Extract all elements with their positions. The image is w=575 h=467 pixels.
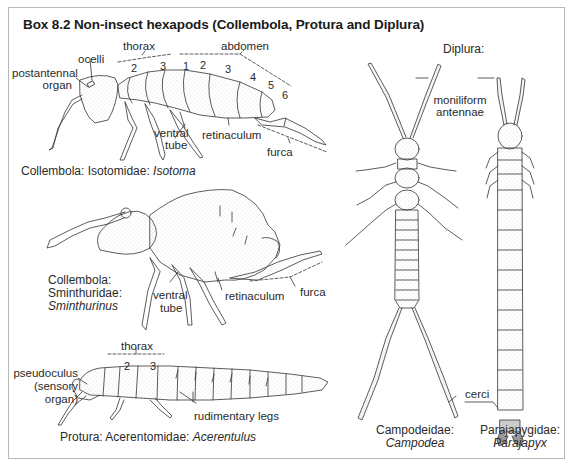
segment-label-abdomen-1: 1 — [183, 60, 189, 72]
caption-sminthurinus-line2: Sminthuridae: — [48, 286, 122, 300]
label-postantennal-organ-line2: organ — [12, 79, 72, 92]
segment-label-abdomen-5: 5 — [268, 79, 274, 91]
caption-sminthurinus-line1: Collembola: — [48, 273, 111, 287]
segment-label-abdomen-6: 6 — [282, 89, 288, 101]
segment-label-acerentulus-2: 2 — [124, 360, 130, 372]
label-pseudoculus-line1: pseudoculus — [10, 367, 78, 380]
diplura-leaders — [416, 78, 498, 408]
label-cerci: cerci — [465, 388, 489, 401]
label-thorax-isotoma: thorax — [123, 40, 155, 53]
label-ocelli: ocelli — [78, 53, 104, 66]
parajapyx-drawing — [486, 78, 534, 446]
label-abdomen-isotoma: abdomen — [221, 40, 269, 53]
parajapyx-cerci-leader — [465, 402, 498, 408]
caption-acerentulus-genus: Acerentulus — [193, 430, 256, 444]
segment-label-abdomen-4: 4 — [250, 71, 256, 83]
label-retinaculum-isotoma: retinaculum — [202, 129, 261, 142]
label-ventral-tube-isotoma-line2: tube — [165, 139, 187, 152]
label-moniliform-line2: antennae — [428, 106, 492, 119]
caption-acerentulus: Protura: Acerentomidae: Acerentulus — [60, 430, 256, 444]
caption-campodea-family: Campodeidae: — [370, 423, 460, 437]
label-pseudoculus-line2: (sensory — [10, 380, 78, 393]
segment-label-acerentulus-3: 3 — [150, 360, 156, 372]
label-furca-isotoma: furca — [267, 146, 293, 159]
label-retinaculum-sminthurinus: retinaculum — [225, 290, 284, 303]
diplura-heading: Diplura: — [443, 42, 484, 56]
acerentulus-drawing — [58, 348, 328, 425]
label-thorax-acerentulus: thorax — [121, 340, 153, 353]
segment-label-thorax-3: 3 — [160, 60, 166, 72]
label-furca-sminthurinus: furca — [300, 286, 326, 299]
caption-isotoma: Collembola: Isotomidae: Isotoma — [21, 164, 196, 178]
segment-label-thorax-2: 2 — [131, 62, 137, 74]
caption-parajapyx-family: Parajapygidae: — [478, 423, 562, 437]
caption-isotoma-genus: Isotoma — [153, 164, 196, 178]
caption-parajapyx-genus: Parajapyx — [478, 436, 562, 450]
label-pseudoculus-line3: organ) — [10, 393, 78, 406]
segment-label-abdomen-3: 3 — [225, 63, 231, 75]
caption-campodea-genus: Campodea — [370, 436, 460, 450]
caption-sminthurinus-genus: Sminthurinus — [48, 299, 118, 313]
label-rudimentary-legs: rudimentary legs — [194, 410, 279, 423]
label-ventral-tube-sminthurinus-line1: ventral — [153, 289, 188, 302]
segment-label-abdomen-2: 2 — [200, 59, 206, 71]
label-ventral-tube-sminthurinus-line2: tube — [160, 302, 182, 315]
